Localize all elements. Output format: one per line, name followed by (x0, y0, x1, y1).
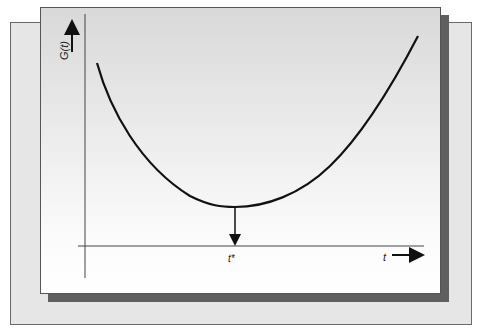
plot-area (0, 0, 479, 333)
minimum-label: t* (228, 253, 235, 264)
g-curve (97, 36, 418, 207)
y-axis-label: G(t) (58, 41, 70, 60)
x-axis-label: t (383, 251, 386, 263)
